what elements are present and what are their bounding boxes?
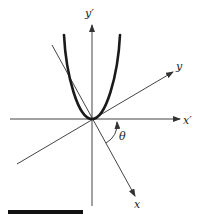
theta-arc-icon	[106, 122, 117, 143]
caption-bar	[8, 210, 83, 214]
y-label: y	[175, 60, 183, 73]
theta-label: θ	[119, 130, 126, 143]
x-prime-label: x′	[183, 114, 192, 127]
diagram-canvas: y′ x′ y x θ	[0, 0, 201, 219]
x-axis	[52, 45, 135, 196]
x-label: x	[134, 198, 141, 211]
y-prime-label: y′	[84, 7, 94, 20]
